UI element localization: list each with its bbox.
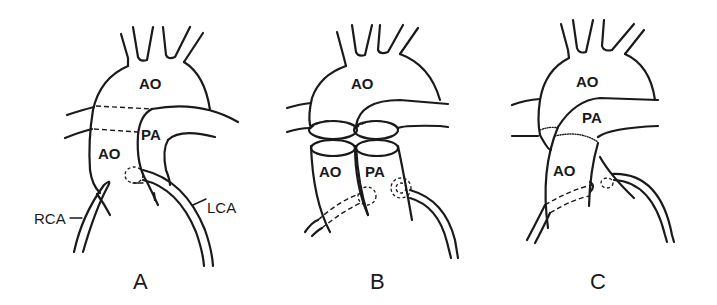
panel-a-ao-upper-label: AO [139, 76, 162, 91]
panel-b-ao-lower-label: AO [319, 164, 342, 179]
panel-c-ao-upper-label: AO [576, 74, 599, 89]
panel-b-ao-upper-label: AO [351, 76, 374, 91]
panel-c-label: C [590, 271, 606, 293]
panel-a-pa-label: PA [141, 127, 161, 142]
panel-a-rca-label: RCA [34, 211, 66, 226]
panel-c-ao-lower-label: AO [553, 163, 576, 178]
panel-a-label: A [133, 271, 148, 293]
panel-a-drawing [65, 27, 238, 266]
panel-c-drawing [512, 20, 674, 243]
panel-b-pa-label: PA [365, 164, 385, 179]
panel-c-pa-label: PA [582, 110, 602, 125]
panel-a-lca-label: LCA [207, 200, 236, 215]
panel-b-label: B [370, 271, 385, 293]
panel-b-drawing [287, 25, 458, 258]
panel-a-ao-lower-label: AO [98, 146, 121, 161]
